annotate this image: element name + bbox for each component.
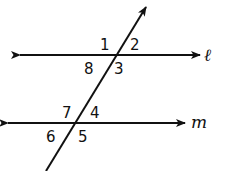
angle-8-label: 8 [84, 60, 94, 78]
angle-2-label: 2 [130, 36, 140, 54]
parallel-lines-transversal-diagram: ℓ m 1 2 8 3 7 4 6 5 [0, 0, 231, 171]
angle-6-label: 6 [46, 128, 56, 146]
angle-4-label: 4 [90, 104, 100, 122]
line-l-label: ℓ [204, 45, 211, 65]
angle-5-label: 5 [78, 128, 88, 146]
angle-3-label: 3 [114, 60, 124, 78]
diagram-svg: ℓ m 1 2 8 3 7 4 6 5 [0, 0, 231, 171]
line-m-label: m [191, 112, 207, 132]
angle-7-label: 7 [62, 104, 72, 122]
transversal-line [46, 7, 146, 171]
angle-1-label: 1 [100, 36, 110, 54]
